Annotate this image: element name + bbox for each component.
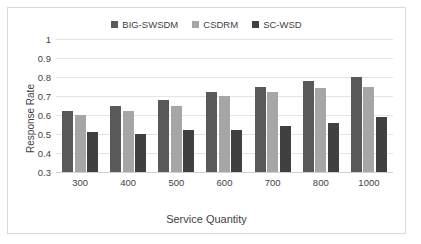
bar-big-swsdm-700[interactable]	[255, 87, 266, 173]
bar-big-swsdm-300[interactable]	[62, 111, 73, 172]
legend-label-big-swsdm: BIG-SWSDM	[122, 20, 178, 30]
bar-big-swsdm-600[interactable]	[206, 92, 217, 172]
bar-csdrm-400[interactable]	[123, 111, 134, 172]
y-axis-tick-label: 0.5	[38, 129, 51, 140]
y-axis-tick-label: 0.6	[38, 110, 51, 121]
bar-big-swsdm-400[interactable]	[110, 106, 121, 173]
bar-big-swsdm-1000[interactable]	[351, 77, 362, 172]
bars-layer: 3004005006007008001000	[56, 39, 393, 172]
y-axis-tick-label: 1	[46, 34, 51, 45]
plot-area: 10.90.80.70.60.50.40.3 30040050060070080…	[56, 39, 393, 172]
legend-label-sc-wsd: SC-WSD	[263, 20, 302, 30]
bar-big-swsdm-800[interactable]	[303, 81, 314, 172]
bar-csdrm-700[interactable]	[267, 92, 278, 172]
bar-csdrm-500[interactable]	[171, 106, 182, 173]
bar-group-600: 600	[200, 39, 248, 172]
bar-csdrm-800[interactable]	[315, 88, 326, 172]
y-axis-tick-label: 0.9	[38, 53, 51, 64]
y-axis-title: Response Rate	[25, 58, 36, 178]
bar-sc-wsd-400[interactable]	[135, 134, 146, 172]
bar-sc-wsd-700[interactable]	[280, 126, 291, 172]
x-axis-tick-label: 600	[200, 177, 248, 188]
x-axis-title: Service Quantity	[8, 213, 405, 225]
bar-sc-wsd-1000[interactable]	[376, 117, 387, 172]
legend-item-0[interactable]: BIG-SWSDM	[111, 20, 178, 30]
chart-container: BIG-SWSDM CSDRM SC-WSD Response Rate 10.…	[7, 7, 406, 234]
bar-group-400: 400	[104, 39, 152, 172]
bar-sc-wsd-500[interactable]	[183, 130, 194, 172]
bar-sc-wsd-600[interactable]	[231, 130, 242, 172]
x-axis-tick-label: 800	[297, 177, 345, 188]
y-axis-tick-label: 0.4	[38, 148, 51, 159]
y-axis-tick-label: 0.8	[38, 72, 51, 83]
y-axis-tick-label: 0.3	[38, 167, 51, 178]
bar-csdrm-600[interactable]	[219, 96, 230, 172]
bar-group-700: 700	[249, 39, 297, 172]
x-axis-tick-label: 300	[56, 177, 104, 188]
bar-group-1000: 1000	[345, 39, 393, 172]
x-axis-tick-label: 400	[104, 177, 152, 188]
chart-legend: BIG-SWSDM CSDRM SC-WSD	[8, 20, 405, 30]
legend-swatch-big-swsdm	[111, 21, 118, 28]
legend-swatch-csdrm	[192, 21, 199, 28]
x-axis-tick-label: 700	[249, 177, 297, 188]
bar-group-800: 800	[297, 39, 345, 172]
bar-csdrm-300[interactable]	[75, 115, 86, 172]
x-axis-tick-label: 1000	[345, 177, 393, 188]
bar-big-swsdm-500[interactable]	[158, 100, 169, 172]
legend-item-1[interactable]: CSDRM	[192, 20, 238, 30]
bar-csdrm-1000[interactable]	[363, 87, 374, 173]
bar-sc-wsd-800[interactable]	[328, 123, 339, 172]
legend-label-csdrm: CSDRM	[203, 20, 238, 30]
legend-item-2[interactable]: SC-WSD	[252, 20, 302, 30]
bar-group-300: 300	[56, 39, 104, 172]
x-axis-tick-label: 500	[152, 177, 200, 188]
legend-swatch-sc-wsd	[252, 21, 259, 28]
bar-group-500: 500	[152, 39, 200, 172]
y-axis-tick-label: 0.7	[38, 91, 51, 102]
gridline	[56, 172, 393, 173]
bar-sc-wsd-300[interactable]	[87, 132, 98, 172]
